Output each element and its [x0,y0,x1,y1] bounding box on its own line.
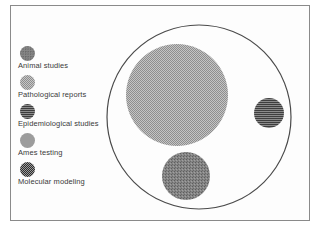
dotted-circle-swatch-icon [20,162,35,177]
legend: Animal studies Pathological reports Epid… [18,46,108,191]
legend-label: Epidemiological studies [18,119,99,128]
speckled-circle-swatch-icon [20,46,35,61]
legend-item-pathological-reports: Pathological reports [18,75,108,104]
legend-label: Pathological reports [18,90,86,99]
legend-item-ames-testing: Ames testing [18,133,108,162]
inner-circles [126,44,284,200]
animal-studies-circle [162,152,210,200]
legend-item-animal-studies: Animal studies [18,46,108,75]
checkered-circle-swatch-icon [20,75,35,90]
legend-label: Molecular modeling [18,177,85,186]
legend-label: Animal studies [18,61,68,70]
legend-label: Ames testing [18,148,63,157]
striped-circle-swatch-icon [20,104,35,119]
epidemiological-studies-circle [254,98,284,128]
legend-item-molecular-modeling: Molecular modeling [18,162,108,191]
solid-circle-swatch-icon [20,133,35,148]
legend-item-epidemiological-studies: Epidemiological studies [18,104,108,133]
pathological-reports-circle [126,44,228,146]
